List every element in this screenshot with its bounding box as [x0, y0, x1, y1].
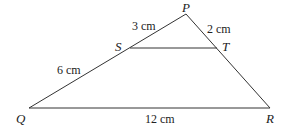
vertex-label-p: P — [182, 1, 190, 14]
vertex-label-q: Q — [16, 112, 25, 125]
measure-qr: 12 cm — [145, 113, 175, 125]
vertex-label-s: S — [115, 40, 122, 53]
measure-ps: 3 cm — [132, 20, 156, 32]
measure-sq: 6 cm — [57, 64, 81, 76]
vertex-label-r: R — [266, 112, 274, 125]
side-pq — [29, 14, 186, 108]
vertex-label-t: T — [222, 40, 229, 53]
measure-pt: 2 cm — [207, 23, 231, 35]
